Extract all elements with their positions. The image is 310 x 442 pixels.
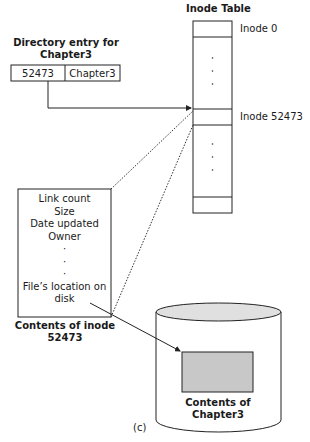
inode-field-location-cont: disk xyxy=(18,293,111,306)
inode-field-size: Size xyxy=(18,206,111,219)
directory-inode-number: 52473 xyxy=(11,65,65,81)
inode-0-label: Inode 0 xyxy=(240,24,277,34)
inode-contents-caption-line1: Contents of inode xyxy=(10,321,120,331)
inode-field-location: File’s location on xyxy=(18,281,111,294)
inode-52473-label: Inode 52473 xyxy=(240,112,303,122)
disk-caption: Contents of Chapter3 xyxy=(178,398,258,420)
file-data-block xyxy=(182,352,253,392)
inode-field-ellipsis: · xyxy=(18,243,111,256)
inode-field-link-count: Link count xyxy=(18,193,111,206)
inode-field-date-updated: Date updated xyxy=(18,218,111,231)
disk-caption-line1: Contents of xyxy=(178,398,258,408)
figure-label: (c) xyxy=(133,423,146,433)
inode-fields-list: Link count Size Date updated Owner · · ·… xyxy=(18,189,111,317)
directory-entry-caption-line1: Directory entry for xyxy=(10,38,122,48)
directory-file-name: Chapter3 xyxy=(65,65,120,81)
inode-field-ellipsis: · xyxy=(18,256,111,269)
disk-caption-line2: Chapter3 xyxy=(178,410,258,420)
inode-contents-caption-line2: 52473 xyxy=(10,333,120,343)
directory-to-inode-arrow xyxy=(48,81,191,108)
inode-field-owner: Owner xyxy=(18,231,111,244)
inode-contents-caption: Contents of inode 52473 xyxy=(10,321,120,343)
inode-table-title: Inode Table xyxy=(186,4,242,14)
directory-entry-caption: Directory entry for Chapter3 xyxy=(10,38,122,60)
directory-entry-caption-line2: Chapter3 xyxy=(10,50,122,60)
inode-field-ellipsis: · xyxy=(18,268,111,281)
zoom-line-bottom xyxy=(111,125,193,317)
inode-table xyxy=(193,21,232,213)
zoom-line-top xyxy=(111,111,193,189)
